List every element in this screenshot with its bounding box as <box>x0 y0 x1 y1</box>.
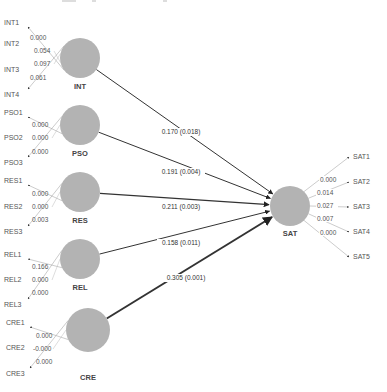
indicator-link <box>52 259 60 280</box>
path-coefficient-label: 0.170 (0.018) <box>162 128 201 136</box>
indicator-value: 0.061 <box>30 74 47 81</box>
indicator-value: 0.097 <box>34 60 51 67</box>
indicator-label: REL2 <box>4 276 22 283</box>
indicator-link <box>304 220 349 257</box>
indicator-value: 0.000 <box>36 358 53 365</box>
indicator-label: RES1 <box>4 177 22 184</box>
path-model-diagram: 0.170 (0.018)0.191 (0.004)0.211 (0.003)0… <box>0 0 387 392</box>
indicator-value: 0.000 <box>36 332 53 339</box>
construct-label: REL <box>73 283 88 292</box>
indicator-label: REL1 <box>4 251 22 258</box>
construct-node-cre[interactable] <box>66 308 110 352</box>
indicator-label: CRE2 <box>6 344 25 351</box>
structural-paths: 0.170 (0.018)0.191 (0.004)0.211 (0.003)0… <box>96 70 272 319</box>
indicator-value: 0.014 <box>317 189 334 196</box>
indicator-label: INT3 <box>4 66 19 73</box>
construct-label: RES <box>72 216 87 225</box>
indicator-label: SAT5 <box>353 253 370 260</box>
construct-node-sat[interactable] <box>270 186 310 226</box>
indicator-value: 0.000 <box>320 176 337 183</box>
indicator-value: 0.000 <box>32 148 49 155</box>
indicator-label: RES2 <box>4 203 22 210</box>
construct-label: CRE <box>80 373 96 382</box>
path-coefficient-label: 0.191 (0.004) <box>162 168 201 176</box>
indicator-label: REL3 <box>4 301 22 308</box>
indicator-link <box>53 330 66 349</box>
indicator-value: 0.000 <box>32 276 49 283</box>
path-pso-sat <box>99 132 271 198</box>
construct-node-rel[interactable] <box>60 239 100 279</box>
path-coefficient-label: 0.158 (0.011) <box>162 239 200 247</box>
indicator-value: 0.166 <box>32 263 49 270</box>
indicator-value: 0.000 <box>32 190 49 197</box>
indicator-label: INT1 <box>4 19 19 26</box>
indicator-value: 0.027 <box>317 202 334 209</box>
indicator-value: 0.000 <box>320 229 337 236</box>
path-coefficient-label: 0.211 (0.003) <box>162 203 200 211</box>
path-rel-sat <box>99 211 269 254</box>
construct-node-res[interactable] <box>60 172 100 212</box>
construct-label: INT <box>74 82 87 91</box>
indicator-label: SAT2 <box>353 178 370 185</box>
indicator-value: 0.000 <box>30 34 47 41</box>
indicator-label: PSO2 <box>4 134 23 141</box>
indicator-label: CRE3 <box>6 370 25 377</box>
labels: INT10.000INT20.054INT30.097INT40.061PSO1… <box>4 19 370 382</box>
indicator-label: SAT3 <box>353 203 370 210</box>
indicator-link <box>54 54 61 64</box>
indicator-value: 0.000 <box>32 121 49 128</box>
construct-label: SAT <box>283 229 298 238</box>
indicator-value: 0.007 <box>317 215 334 222</box>
indicator-label: RES3 <box>4 228 22 235</box>
path-cre-sat <box>107 217 272 319</box>
indicator-label: PSO1 <box>4 109 23 116</box>
path-coefficient-label: 0.305 (0.001) <box>167 274 206 282</box>
clipped-top-text <box>62 0 167 2</box>
construct-nodes <box>60 38 310 352</box>
construct-label: PSO <box>72 149 88 158</box>
indicator-label: SAT4 <box>353 228 370 235</box>
construct-node-int[interactable] <box>60 38 100 78</box>
indicator-value: 0.000 <box>32 203 49 210</box>
indicator-value: 0.003 <box>32 216 49 223</box>
indicator-label: SAT1 <box>353 153 370 160</box>
indicator-value: -0.000 <box>33 345 52 352</box>
indicator-value: 0.054 <box>34 47 51 54</box>
indicator-label: INT2 <box>4 40 19 47</box>
indicator-value: 0.000 <box>32 134 49 141</box>
indicator-label: CRE1 <box>6 319 25 326</box>
construct-node-pso[interactable] <box>60 105 100 145</box>
indicator-link <box>304 157 349 192</box>
indicator-label: INT4 <box>4 91 19 98</box>
indicator-label: PSO3 <box>4 159 23 166</box>
indicator-value: 0.000 <box>32 289 49 296</box>
